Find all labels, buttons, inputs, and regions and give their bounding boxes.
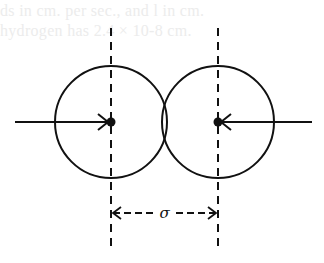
right-velocity-arrow-icon [221, 114, 312, 130]
sigma-label: σ [159, 204, 170, 222]
left-velocity-arrow-icon [15, 114, 108, 130]
colliding-molecules-diagram: σ [0, 0, 324, 263]
